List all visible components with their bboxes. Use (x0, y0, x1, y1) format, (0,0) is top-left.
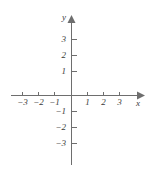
x-tick-label-3: 3 (109, 98, 130, 107)
y-tick-label--1: −1 (45, 107, 66, 116)
y-tick-label--3: −3 (45, 139, 66, 148)
y-axis-arrowhead (68, 15, 76, 23)
y-tick-label-2: 2 (45, 51, 66, 60)
coordinate-plane-figure: −3 −2 −1 1 2 3 3 2 1 −1 −2 −3 x y (0, 0, 156, 174)
y-tick-label-1: 1 (45, 67, 66, 76)
x-axis-label: x (136, 99, 140, 108)
y-tick-label-3: 3 (45, 35, 66, 44)
y-tick-label--2: −2 (45, 123, 66, 132)
y-axis-label: y (62, 13, 66, 22)
axes-svg (0, 0, 156, 174)
